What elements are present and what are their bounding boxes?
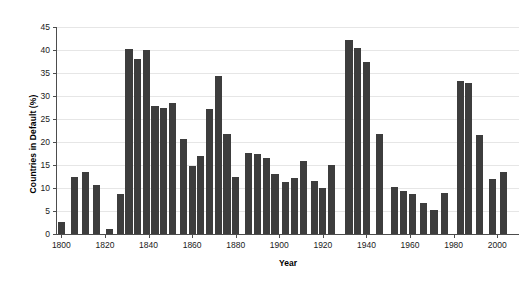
bar [180, 139, 187, 234]
x-tick-mark [279, 234, 280, 238]
bar [215, 76, 222, 234]
bar [271, 174, 278, 234]
bar [245, 153, 252, 234]
y-tick-mark [53, 27, 57, 28]
y-tick-mark [53, 50, 57, 51]
bar [189, 166, 196, 234]
bar [106, 229, 113, 234]
bar [82, 172, 89, 234]
x-tick-mark [192, 234, 193, 238]
y-tick-label: 0 [45, 229, 50, 239]
chart-figure: Countries in Default (%) 051015202530354… [0, 0, 531, 288]
bar [151, 106, 158, 234]
bar [93, 185, 100, 234]
x-tick-label: 1960 [401, 240, 420, 250]
bar [420, 203, 427, 234]
x-tick-mark [323, 234, 324, 238]
y-tick-mark [53, 73, 57, 74]
x-tick-mark [497, 234, 498, 238]
bar [441, 193, 448, 234]
y-tick-mark [53, 142, 57, 143]
x-tick-mark [236, 234, 237, 238]
x-tick-mark [61, 234, 62, 238]
x-tick-label: 2000 [488, 240, 507, 250]
bar [500, 172, 507, 234]
bar [363, 62, 370, 235]
x-tick-mark [366, 234, 367, 238]
bar [457, 81, 464, 234]
y-tick-label: 10 [41, 183, 50, 193]
y-tick-label: 40 [41, 45, 50, 55]
bar [206, 109, 213, 234]
bar [354, 48, 361, 234]
bar [291, 178, 298, 234]
x-tick-label: 1860 [183, 240, 202, 250]
bar [134, 59, 141, 234]
bar [125, 49, 132, 234]
y-tick-mark [53, 188, 57, 189]
bar [223, 134, 230, 234]
bar [311, 181, 318, 234]
bar [117, 194, 124, 234]
y-tick-label: 45 [41, 22, 50, 32]
gridline [57, 27, 519, 28]
x-tick-label: 1940 [357, 240, 376, 250]
y-tick-label: 30 [41, 91, 50, 101]
bar [328, 165, 335, 234]
x-tick-label: 1900 [270, 240, 289, 250]
bar [476, 135, 483, 234]
y-tick-mark [53, 165, 57, 166]
x-tick-mark [454, 234, 455, 238]
x-tick-label: 1980 [444, 240, 463, 250]
bar [197, 156, 204, 234]
bar [489, 179, 496, 234]
bar [282, 182, 289, 234]
y-tick-mark [53, 234, 57, 235]
bar [300, 161, 307, 234]
x-tick-label: 1820 [95, 240, 114, 250]
bar [345, 40, 352, 234]
x-tick-mark [149, 234, 150, 238]
bar [232, 177, 239, 234]
bar [263, 158, 270, 234]
plot-area: 051015202530354045 180018201840186018801… [56, 27, 519, 235]
bar [409, 194, 416, 234]
y-tick-mark [53, 211, 57, 212]
y-tick-label: 15 [41, 160, 50, 170]
bar [143, 50, 150, 234]
y-tick-label: 20 [41, 137, 50, 147]
x-tick-label: 1920 [313, 240, 332, 250]
bar [58, 222, 65, 234]
x-tick-label: 1840 [139, 240, 158, 250]
y-tick-label: 25 [41, 114, 50, 124]
x-tick-label: 1880 [226, 240, 245, 250]
y-tick-label: 5 [45, 206, 50, 216]
bar [391, 187, 398, 234]
bar [400, 191, 407, 234]
bar [169, 103, 176, 234]
bar [71, 177, 78, 235]
bar [430, 210, 437, 234]
x-tick-label: 1800 [52, 240, 71, 250]
x-tick-mark [410, 234, 411, 238]
bar [376, 134, 383, 234]
y-tick-label: 35 [41, 68, 50, 78]
bar [160, 108, 167, 234]
y-tick-mark [53, 119, 57, 120]
x-tick-mark [105, 234, 106, 238]
bar [465, 83, 472, 234]
bar [254, 154, 261, 235]
x-axis-title: Year [56, 258, 520, 268]
y-tick-mark [53, 96, 57, 97]
bar [319, 188, 326, 234]
